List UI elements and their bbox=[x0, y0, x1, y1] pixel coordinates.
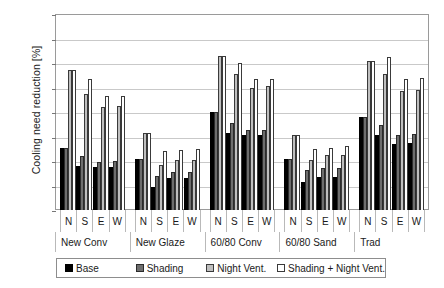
bars-layer bbox=[55, 14, 429, 210]
bar-group bbox=[279, 14, 354, 210]
bar-cluster bbox=[375, 14, 391, 210]
orientation-label-w: W bbox=[258, 210, 275, 232]
category-label: 60/80 Conv bbox=[205, 232, 281, 252]
orientation-label-e: E bbox=[392, 210, 409, 232]
bar[interactable] bbox=[121, 96, 125, 210]
orientation-label-s: S bbox=[301, 210, 318, 232]
orientation-label-e: E bbox=[242, 210, 259, 232]
category-label: New Glaze bbox=[130, 232, 206, 252]
bar-cluster bbox=[109, 14, 125, 210]
bar-cluster bbox=[408, 14, 424, 210]
orientation-label-w: W bbox=[183, 210, 200, 232]
bar-cluster bbox=[92, 14, 108, 210]
legend-label: Base bbox=[76, 263, 99, 274]
legend-swatch-icon bbox=[136, 264, 144, 272]
orientation-group: NSEW bbox=[55, 210, 130, 232]
legend-item[interactable]: Night Vent. bbox=[198, 263, 269, 274]
legend-swatch-icon bbox=[277, 264, 285, 272]
category-label: New Conv bbox=[55, 232, 131, 252]
legend-item[interactable]: Shading + Night Vent. bbox=[269, 263, 385, 274]
bar-cluster bbox=[135, 14, 151, 210]
bar-cluster bbox=[151, 14, 167, 210]
orientation-label-s: S bbox=[226, 210, 243, 232]
bar[interactable] bbox=[196, 149, 200, 210]
orientation-label-n: N bbox=[359, 210, 376, 232]
group-label-row: New ConvNew Glaze60/80 Conv60/80 SandTra… bbox=[55, 232, 429, 252]
orientation-label-s: S bbox=[76, 210, 93, 232]
bar-cluster bbox=[210, 14, 226, 210]
orientation-label-n: N bbox=[284, 210, 301, 232]
orientation-group: NSEW bbox=[354, 210, 429, 232]
y-axis-title: Cooling need reduction [%] bbox=[30, 10, 42, 210]
bar-group bbox=[354, 14, 429, 210]
orientation-group: NSEW bbox=[130, 210, 205, 232]
legend-label: Night Vent. bbox=[217, 263, 266, 274]
bar-cluster bbox=[76, 14, 92, 210]
bar[interactable] bbox=[345, 146, 349, 210]
cooling-need-reduction-chart: Cooling need reduction [%] 80%70%60%50%4… bbox=[0, 0, 444, 288]
orientation-label-n: N bbox=[60, 210, 77, 232]
bar-cluster bbox=[242, 14, 258, 210]
bar-cluster bbox=[60, 14, 76, 210]
orientation-group: NSEW bbox=[279, 210, 354, 232]
chart-legend: BaseShadingNight Vent.Shading + Night Ve… bbox=[56, 258, 386, 278]
legend-item[interactable]: Shading bbox=[128, 263, 199, 274]
legend-label: Shading + Night Vent. bbox=[288, 263, 385, 274]
bar-cluster bbox=[258, 14, 274, 210]
legend-swatch-icon bbox=[206, 264, 214, 272]
category-label: 60/80 Sand bbox=[279, 232, 355, 252]
bar-cluster bbox=[392, 14, 408, 210]
orientation-label-e: E bbox=[92, 210, 109, 232]
bar-cluster bbox=[284, 14, 300, 210]
bar-cluster bbox=[183, 14, 199, 210]
orientation-label-w: W bbox=[333, 210, 350, 232]
category-label: Trad bbox=[354, 232, 430, 252]
orientation-label-e: E bbox=[317, 210, 334, 232]
legend-item[interactable]: Base bbox=[57, 263, 128, 274]
orientation-label-w: W bbox=[408, 210, 425, 232]
orientation-label-w: W bbox=[109, 210, 126, 232]
legend-swatch-icon bbox=[65, 264, 73, 272]
bar-cluster bbox=[317, 14, 333, 210]
bar-cluster bbox=[167, 14, 183, 210]
bar[interactable] bbox=[270, 79, 274, 210]
orientation-label-s: S bbox=[375, 210, 392, 232]
orientation-label-n: N bbox=[210, 210, 227, 232]
bar-cluster bbox=[333, 14, 349, 210]
orientation-label-s: S bbox=[151, 210, 168, 232]
orientation-label-row: NSEWNSEWNSEWNSEWNSEW bbox=[55, 210, 429, 232]
bar-group bbox=[55, 14, 130, 210]
bar-group bbox=[130, 14, 205, 210]
bar-cluster bbox=[301, 14, 317, 210]
orientation-group: NSEW bbox=[205, 210, 280, 232]
orientation-label-n: N bbox=[135, 210, 152, 232]
orientation-label-e: E bbox=[167, 210, 184, 232]
bar-group bbox=[205, 14, 280, 210]
legend-label: Shading bbox=[147, 263, 184, 274]
bar-cluster bbox=[226, 14, 242, 210]
bar[interactable] bbox=[420, 78, 424, 210]
bar-cluster bbox=[359, 14, 375, 210]
